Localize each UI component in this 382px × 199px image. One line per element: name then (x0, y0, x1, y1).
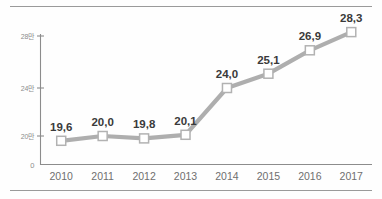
data-point-value-label-2017: 28,3 (340, 12, 362, 24)
data-point-marker-2017 (347, 28, 356, 37)
x-axis-tick-label-2012: 2012 (132, 170, 156, 182)
data-point-marker-2011 (98, 132, 107, 141)
data-point-marker-2010 (57, 136, 66, 145)
y-axis-tick-label: 0 (30, 161, 34, 170)
data-point-value-label-2011: 20,0 (91, 116, 113, 128)
x-axis-tick-label-2015: 2015 (257, 170, 281, 182)
data-point-marker-2016 (305, 46, 314, 55)
line-chart-svg: 020만24만28만 20102011201220132014201520162… (0, 0, 382, 199)
x-axis: 20102011201220132014201520162017 (41, 165, 373, 183)
x-axis-tick-label-2016: 2016 (298, 170, 322, 182)
x-axis-tick-label-2011: 2011 (91, 170, 114, 182)
data-point-marker-2013 (181, 130, 190, 139)
data-point-marker-2015 (264, 69, 273, 78)
data-point-value-label-2015: 25,1 (257, 54, 280, 66)
data-point-value-labels: 19,620,019,820,124,025,126,928,3 (50, 12, 362, 133)
x-axis-tick-label-2010: 2010 (50, 170, 74, 182)
data-point-value-label-2016: 26,9 (299, 30, 321, 42)
data-point-value-label-2013: 20,1 (174, 115, 197, 127)
chart-figure: 020만24만28만 20102011201220132014201520162… (0, 0, 382, 199)
x-axis-tick-labels: 20102011201220132014201520162017 (50, 170, 364, 182)
y-axis-tick-label: 20만 (21, 132, 36, 140)
line-chart-plot-area: 020만24만28만 20102011201220132014201520162… (0, 0, 382, 199)
data-point-value-label-2014: 24,0 (216, 68, 238, 80)
data-point-value-label-2012: 19,8 (133, 118, 156, 130)
x-axis-tick-label-2017: 2017 (340, 170, 364, 182)
x-axis-tick-label-2014: 2014 (215, 170, 239, 182)
y-axis-tick-label: 28만 (21, 32, 36, 40)
x-axis-tick-label-2013: 2013 (174, 170, 198, 182)
data-point-marker-2014 (222, 84, 231, 93)
data-point-marker-2012 (140, 134, 149, 143)
data-point-value-label-2010: 19,6 (50, 121, 72, 133)
y-axis-tick-label: 24만 (21, 84, 36, 92)
y-axis-tick-labels: 020만24만28만 (21, 32, 36, 170)
y-axis: 020만24만28만 (21, 32, 44, 170)
